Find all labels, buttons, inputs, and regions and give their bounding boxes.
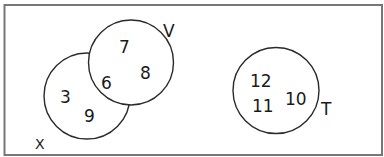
element-6: 6 <box>101 73 112 93</box>
element-8: 8 <box>140 63 151 83</box>
element-10: 10 <box>285 89 307 109</box>
element-3: 3 <box>60 87 71 107</box>
element-11: 11 <box>252 96 274 116</box>
venn-diagram: 3 9 6 7 8 12 11 10 V T X <box>0 0 384 157</box>
universal-set-label-x: X <box>35 136 45 152</box>
element-12: 12 <box>250 71 272 91</box>
element-7: 7 <box>119 37 130 57</box>
set-label-t: T <box>320 99 332 119</box>
set-label-v: V <box>163 21 175 41</box>
element-9: 9 <box>84 106 95 126</box>
